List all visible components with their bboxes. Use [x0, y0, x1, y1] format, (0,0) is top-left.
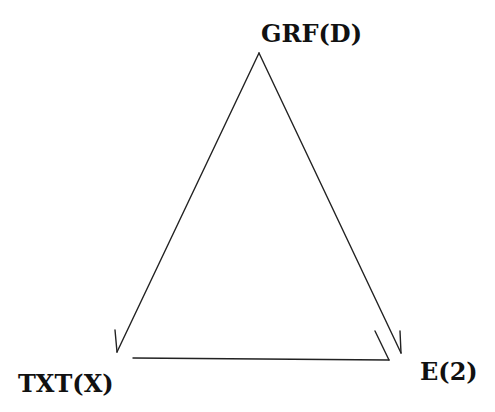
arrowhead-e-icon [400, 331, 401, 353]
node-grf-d: GRF(D) [261, 22, 362, 46]
edge-grf-to-txt [117, 53, 259, 352]
diagram-canvas [0, 0, 495, 412]
arrowhead-txt-icon [115, 330, 117, 352]
node-e-2: E(2) [420, 360, 478, 384]
edge-txt-to-e [133, 358, 389, 360]
arrowhead-bottom-icon [375, 331, 389, 360]
edge-grf-to-e [259, 53, 401, 353]
node-txt-x: TXT(X) [18, 372, 114, 396]
